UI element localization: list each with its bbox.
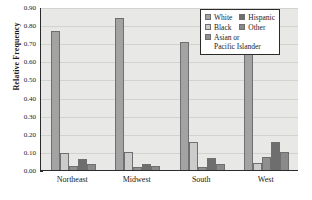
x-axis-tick-label: South	[192, 175, 211, 184]
bar	[198, 167, 207, 170]
bar	[189, 142, 198, 170]
bar	[280, 152, 289, 170]
bar	[207, 158, 216, 170]
bar	[78, 159, 87, 170]
legend-swatch-icon	[205, 14, 211, 20]
y-axis-tick-label: 0.90	[24, 4, 40, 12]
y-axis-title: Relative Frequency	[12, 0, 21, 117]
legend-item: Black	[205, 23, 232, 32]
legend-item: Other	[239, 23, 275, 32]
bar	[51, 31, 60, 170]
bar-group	[106, 8, 171, 170]
legend-swatch-icon	[239, 24, 245, 30]
bar-chart-figure: Relative Frequency 0.900.800.700.600.500…	[0, 0, 312, 200]
y-axis-tick-label: 0.70	[24, 40, 40, 48]
bar	[60, 153, 69, 170]
x-axis-tick-label: West	[258, 175, 274, 184]
legend-label: Hispanic	[248, 13, 275, 22]
y-axis-tick-label: 0.60	[24, 58, 40, 66]
x-axis-tick-label: Northeast	[57, 175, 88, 184]
bar	[115, 18, 124, 170]
legend-item: Asian orPacific Islander	[205, 33, 275, 51]
y-axis-tick-label: 0.10	[24, 149, 40, 157]
legend-swatch-icon	[205, 24, 211, 30]
bar	[271, 142, 280, 170]
y-axis-tick-label: 0.40	[24, 95, 40, 103]
legend-label: Other	[248, 23, 265, 32]
y-axis-tick-label: 0.30	[24, 113, 40, 121]
bar	[244, 54, 253, 170]
legend-swatch-icon	[239, 14, 245, 20]
legend-label: Asian orPacific Islander	[214, 33, 261, 51]
y-axis-tick-label: 0.20	[24, 131, 40, 139]
bar	[142, 164, 151, 170]
bar	[253, 163, 262, 170]
bar	[124, 152, 133, 170]
bar	[216, 164, 225, 170]
legend: WhiteHispanicBlackOtherAsian orPacific I…	[200, 9, 280, 55]
legend-item: White	[205, 13, 232, 22]
bar-group	[41, 8, 106, 170]
legend-label: White	[214, 13, 232, 22]
bar	[133, 167, 142, 170]
legend-label: Black	[214, 23, 232, 32]
legend-swatch-icon	[205, 34, 211, 40]
legend-item: Hispanic	[239, 13, 275, 22]
bar	[262, 157, 271, 170]
y-axis-tick-label: 0.80	[24, 22, 40, 30]
bar	[151, 166, 160, 170]
y-axis-tick-label: 0.00	[24, 167, 40, 175]
y-axis-tick-label: 0.50	[24, 76, 40, 84]
x-axis-tick-label: Midwest	[123, 175, 151, 184]
bar	[180, 42, 189, 170]
bar	[87, 164, 96, 170]
bar	[69, 166, 78, 170]
